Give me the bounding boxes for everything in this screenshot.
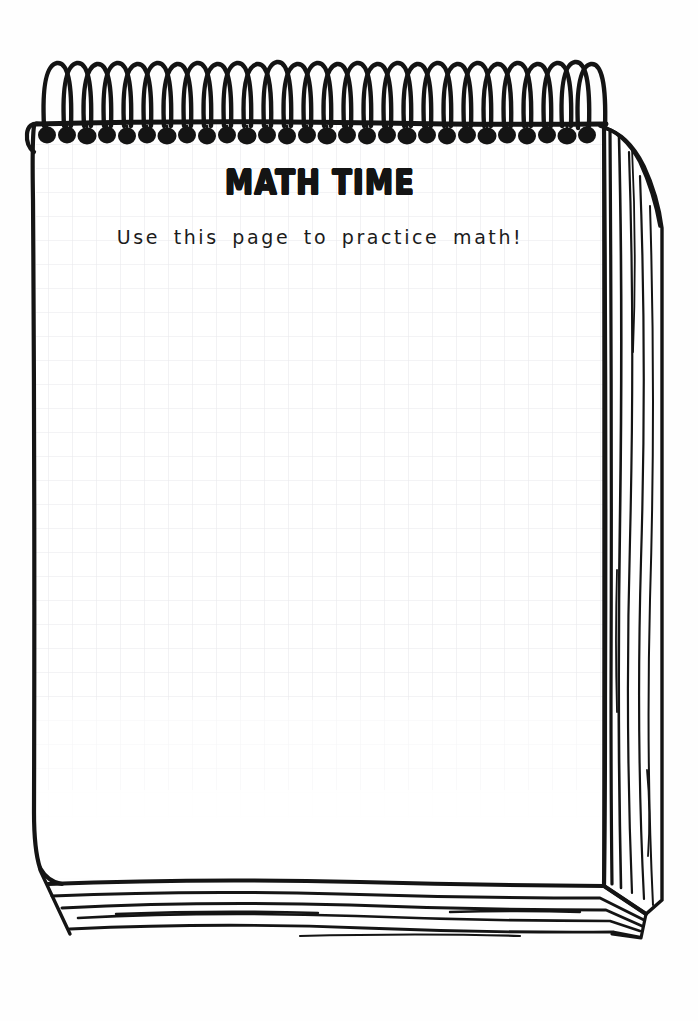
- spiral-loops: [44, 62, 606, 128]
- front-page: [30, 118, 612, 890]
- graph-grid: [30, 118, 612, 890]
- screenshot-canvas: MATH TIME Use this page to practice math…: [0, 0, 698, 1021]
- notepad-illustration: [0, 0, 698, 1021]
- spiral-wire-bar: [36, 122, 606, 125]
- page-stack-right-edge: [604, 128, 662, 914]
